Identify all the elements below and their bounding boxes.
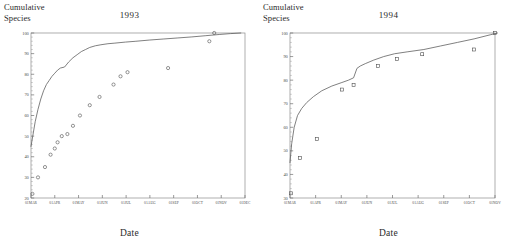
x-axis-label-1994: Date bbox=[259, 228, 518, 238]
svg-text:80: 80 bbox=[283, 78, 288, 83]
svg-text:01OCT: 01OCT bbox=[192, 201, 204, 205]
svg-text:70: 70 bbox=[24, 92, 29, 97]
svg-text:60: 60 bbox=[24, 113, 29, 118]
svg-text:01SEP: 01SEP bbox=[439, 201, 449, 205]
svg-text:01MAY: 01MAY bbox=[73, 201, 85, 205]
svg-text:01APR: 01APR bbox=[310, 201, 321, 205]
svg-text:01NOV: 01NOV bbox=[489, 201, 501, 205]
svg-text:01APR: 01APR bbox=[49, 201, 60, 205]
svg-text:01JUN: 01JUN bbox=[362, 201, 373, 205]
svg-text:40: 40 bbox=[24, 154, 29, 159]
plot-svg-1993: 203040506070809010001MAR01APR01MAY01JUN0… bbox=[0, 0, 259, 246]
svg-text:01NOV: 01NOV bbox=[215, 201, 227, 205]
svg-text:30: 30 bbox=[283, 196, 288, 201]
svg-text:100: 100 bbox=[281, 31, 288, 36]
svg-text:90: 90 bbox=[283, 54, 288, 59]
svg-text:01MAR: 01MAR bbox=[284, 201, 297, 205]
plot-area-1994: 3040506070809010001MAR01APR01MAY01JUN01J… bbox=[259, 0, 518, 246]
svg-text:60: 60 bbox=[283, 125, 288, 130]
svg-text:01MAR: 01MAR bbox=[25, 201, 38, 205]
svg-text:50: 50 bbox=[24, 134, 29, 139]
svg-text:50: 50 bbox=[283, 148, 288, 153]
svg-text:20: 20 bbox=[24, 196, 29, 201]
plot-area-1993: 203040506070809010001MAR01APR01MAY01JUN0… bbox=[0, 0, 259, 246]
svg-text:01SEP: 01SEP bbox=[169, 201, 179, 205]
svg-text:01DEC: 01DEC bbox=[239, 201, 251, 205]
svg-text:40: 40 bbox=[283, 172, 288, 177]
svg-text:01JUL: 01JUL bbox=[121, 201, 131, 205]
svg-text:100: 100 bbox=[22, 31, 29, 36]
x-axis-label-1993: Date bbox=[0, 228, 259, 238]
plot-svg-1994: 3040506070809010001MAR01APR01MAY01JUN01J… bbox=[259, 0, 518, 246]
svg-text:01AUG: 01AUG bbox=[144, 201, 156, 205]
chart-panel-1993: CumulativeSpecies 1993 20304050607080901… bbox=[0, 0, 259, 246]
svg-text:01MAY: 01MAY bbox=[335, 201, 347, 205]
chart-panel-1994: CumulativeSpecies 1994 30405060708090100… bbox=[259, 0, 518, 246]
svg-text:80: 80 bbox=[24, 72, 29, 77]
svg-text:01OCT: 01OCT bbox=[464, 201, 476, 205]
figure-panels: CumulativeSpecies 1993 20304050607080901… bbox=[0, 0, 518, 246]
svg-text:01JUL: 01JUL bbox=[387, 201, 397, 205]
svg-text:01AUG: 01AUG bbox=[412, 201, 424, 205]
svg-text:70: 70 bbox=[283, 101, 288, 106]
svg-text:01JUN: 01JUN bbox=[97, 201, 108, 205]
svg-text:30: 30 bbox=[24, 175, 29, 180]
svg-text:90: 90 bbox=[24, 51, 29, 56]
